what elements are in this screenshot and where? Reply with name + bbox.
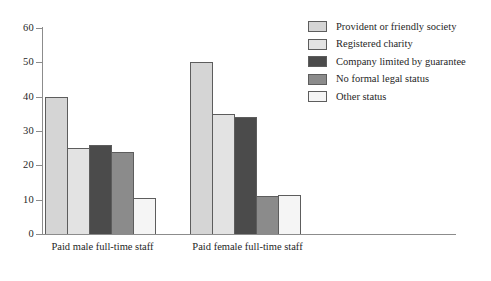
legend-label: No formal legal status (336, 73, 429, 85)
legend-label: Provident or friendly society (336, 21, 456, 33)
bar (212, 114, 235, 234)
plot-area (42, 28, 304, 234)
y-axis-tick-label: 20 (2, 160, 34, 170)
y-axis-tick (36, 234, 42, 235)
legend-swatch (308, 56, 327, 67)
bar (190, 62, 213, 234)
legend-label: Other status (336, 91, 386, 103)
legend-swatch (308, 91, 327, 102)
legend-swatch (308, 39, 327, 50)
bar (133, 198, 156, 234)
legend-item: Registered charity (308, 37, 466, 52)
y-axis-tick-label: 10 (2, 195, 34, 205)
legend-item: Other status (308, 89, 466, 104)
legend-label: Company limited by guarantee (336, 56, 466, 68)
bar (278, 195, 301, 234)
legend-swatch (308, 74, 327, 85)
legend-swatch (308, 21, 327, 32)
y-axis-tick-label: 60 (2, 23, 34, 33)
legend-item: No formal legal status (308, 72, 466, 87)
bar (111, 152, 134, 234)
bar-group (45, 28, 156, 234)
legend-label: Registered charity (336, 38, 413, 50)
y-axis-tick-label: 50 (2, 57, 34, 67)
legend-item: Company limited by guarantee (308, 54, 466, 69)
legend-item: Provident or friendly society (308, 19, 466, 34)
x-axis-group-label: Paid female full-time staff (168, 240, 328, 253)
bar (67, 148, 90, 234)
y-axis-tick-label: 0 (2, 229, 34, 239)
y-axis-tick-label: 40 (2, 92, 34, 102)
bar-group (190, 28, 301, 234)
bar (234, 117, 257, 234)
y-axis-tick-label: 30 (2, 126, 34, 136)
bar (256, 196, 279, 234)
chart-legend: Provident or friendly societyRegistered … (308, 19, 466, 107)
bar-chart: 0102030405060 Paid male full-time staffP… (0, 0, 491, 281)
bar (89, 145, 112, 234)
bar (45, 97, 68, 234)
x-axis-line (42, 234, 456, 235)
x-axis-group-label: Paid male full-time staff (23, 240, 183, 253)
